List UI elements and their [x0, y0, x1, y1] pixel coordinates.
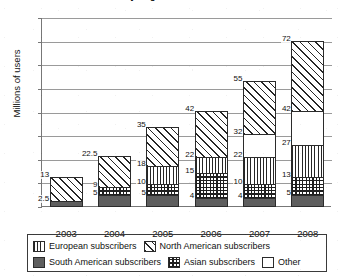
bar-segment: 27	[291, 145, 324, 178]
chart-legend: European subscribersNorth American subsc…	[27, 234, 327, 272]
legend-swatch-icon	[33, 257, 45, 268]
y-tick-mark	[38, 136, 42, 137]
bar-segment: 5	[146, 195, 179, 207]
bar-value-label: 55	[233, 75, 243, 83]
bar-value-label: 22.5	[81, 150, 98, 158]
y-tick-mark	[38, 18, 42, 19]
y-tick-mark	[38, 42, 42, 43]
bar-segment: 42	[291, 111, 324, 146]
bar-segment: 22	[195, 157, 228, 174]
bar-segment: 13	[291, 177, 324, 196]
y-axis-title: Millions of users	[11, 24, 22, 144]
bar-value-label: 2.5	[38, 195, 50, 203]
gridline	[42, 160, 332, 161]
legend-item: North American subscribers	[144, 241, 271, 252]
legend-row-2: South American subscribersAsian subscrib…	[33, 254, 321, 270]
bar-segment: 5	[98, 195, 131, 207]
y-tick-mark	[38, 65, 42, 66]
bar-2006: 4152242	[195, 111, 228, 206]
legend-label: Asian subscribers	[184, 257, 255, 267]
gridline	[42, 65, 332, 66]
bar-segment: 35	[146, 127, 179, 167]
legend-swatch-icon	[33, 241, 45, 252]
legend-label: Other	[278, 257, 301, 267]
bar-value-label: 10	[233, 178, 243, 186]
legend-item: Asian subscribers	[168, 257, 255, 268]
bar-value-label: 72	[281, 35, 291, 43]
legend-item: European subscribers	[33, 241, 137, 252]
legend-swatch-icon	[144, 241, 156, 252]
chart-title: by Region 2003–2007	[0, 0, 343, 2]
bar-segment: 42	[195, 111, 228, 158]
bar-segment: 4	[243, 198, 276, 207]
legend-swatch-icon	[168, 257, 180, 268]
y-tick-mark	[38, 207, 42, 208]
y-tick-mark	[38, 160, 42, 161]
bar-value-label: 15	[185, 167, 195, 175]
bar-segment: 22	[243, 157, 276, 185]
legend-item: Other	[262, 257, 301, 268]
bar-segment: 13	[50, 177, 83, 202]
bar-value-label: 42	[281, 105, 291, 113]
gridline	[42, 18, 332, 19]
bar-2005: 5101835	[146, 127, 179, 206]
bar-value-label: 22	[233, 151, 243, 159]
bar-value-label: 13	[281, 171, 291, 179]
bar-value-label: 32	[233, 128, 243, 136]
bar-segment: 18	[146, 166, 179, 185]
legend-label: South American subscribers	[49, 257, 161, 267]
legend-item: South American subscribers	[33, 257, 161, 268]
bar-2008: 513274272	[291, 41, 324, 206]
bar-segment: 5	[291, 195, 324, 207]
bar-value-label: 18	[136, 160, 146, 168]
y-tick-mark	[38, 113, 42, 114]
bar-segment: 9	[98, 187, 131, 196]
bar-value-label: 42	[185, 105, 195, 113]
bar-value-label: 27	[281, 139, 291, 147]
gridline	[42, 89, 332, 90]
bar-segment: 15	[195, 173, 228, 199]
y-tick-mark	[38, 183, 42, 184]
bar-value-label: 10	[136, 178, 146, 186]
plot-area: 807060504030201002.51320035922.520045101…	[41, 18, 331, 207]
bar-2004: 5922.5	[98, 156, 131, 206]
bar-segment: 55	[243, 81, 276, 135]
gridline	[42, 136, 332, 137]
bar-2007: 410223255	[243, 81, 276, 206]
bar-segment: 32	[243, 134, 276, 158]
legend-row-1: European subscribersNorth American subsc…	[33, 238, 321, 254]
bar-2003: 2.513	[50, 177, 83, 206]
bar-value-label: 13	[40, 171, 50, 179]
bar-segment: 4	[195, 198, 228, 207]
bar-segment: 10	[243, 184, 276, 198]
legend-swatch-icon	[262, 257, 274, 268]
bar-value-label: 22	[185, 151, 195, 159]
bar-segment: 22.5	[98, 156, 131, 188]
gridline	[42, 183, 332, 184]
legend-label: European subscribers	[49, 241, 137, 251]
y-tick-mark	[38, 89, 42, 90]
bar-segment: 72	[291, 41, 324, 112]
bar-value-label: 35	[136, 121, 146, 129]
legend-label: North American subscribers	[160, 241, 271, 251]
bar-segment: 10	[146, 184, 179, 196]
